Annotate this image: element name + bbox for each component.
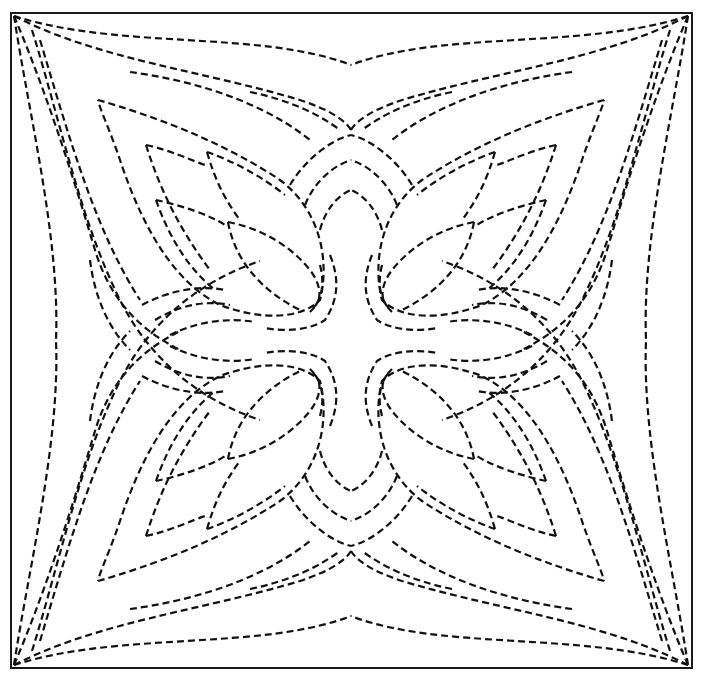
stencil-frame — [11, 13, 692, 668]
quadrant-bottom-right — [351, 261, 688, 665]
quadrant-bottom-left — [14, 261, 351, 665]
quadrant-top-left — [14, 16, 351, 420]
quilting-stencil — [0, 0, 702, 675]
quadrant-top-right — [351, 16, 688, 420]
